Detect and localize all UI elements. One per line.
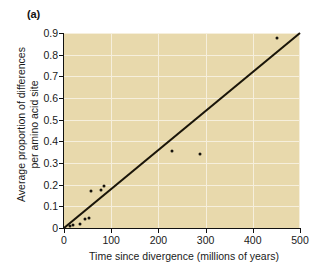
x-axis-tick-label: 300	[186, 234, 226, 246]
y-axis-line	[63, 33, 64, 229]
y-axis-tick	[59, 76, 63, 77]
y-axis-tick	[59, 185, 63, 186]
x-axis-tick-label: 200	[138, 234, 178, 246]
data-point	[78, 223, 81, 226]
x-axis-line	[63, 228, 301, 229]
plot-area	[64, 33, 300, 228]
data-point	[170, 150, 173, 153]
data-point	[99, 189, 102, 192]
regression-line	[64, 33, 300, 228]
x-axis-tick	[206, 229, 207, 233]
y-axis-tick	[59, 33, 63, 34]
x-axis-tick-label: 500	[280, 234, 320, 246]
y-axis-tick	[59, 55, 63, 56]
data-point	[198, 152, 201, 155]
y-axis-tick	[59, 98, 63, 99]
data-point	[276, 36, 279, 39]
data-point	[102, 185, 105, 188]
y-axis-tick	[59, 141, 63, 142]
figure-panel: (a) 0100200300400500 00.10.20.30.40.50.6…	[0, 0, 324, 276]
y-axis-tick	[59, 206, 63, 207]
data-point	[90, 189, 93, 192]
y-axis-title: Average proportion of differences per am…	[15, 20, 40, 230]
x-axis-title: Time since divergence (millions of years…	[64, 250, 304, 262]
y-axis-title-line-2: per amino acid site	[27, 20, 40, 230]
data-point	[87, 217, 90, 220]
y-axis-tick	[59, 120, 63, 121]
x-axis-tick	[111, 229, 112, 233]
x-axis-tick	[253, 229, 254, 233]
data-point	[68, 224, 71, 227]
x-axis-tick	[300, 229, 301, 233]
y-axis-tick	[59, 163, 63, 164]
data-point	[72, 224, 75, 227]
x-axis-tick-label: 100	[91, 234, 131, 246]
x-axis-tick	[158, 229, 159, 233]
x-axis-tick-label: 400	[233, 234, 273, 246]
y-axis-tick	[59, 228, 63, 229]
x-axis-tick	[64, 229, 65, 233]
y-axis-title-line-1: Average proportion of differences	[15, 20, 28, 230]
